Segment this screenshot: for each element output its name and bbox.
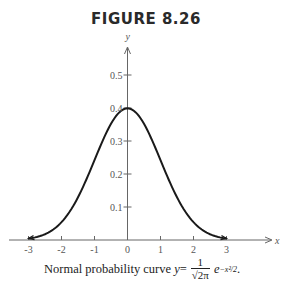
x-tick-label: -1 (90, 244, 98, 255)
x-axis-label: x (274, 235, 280, 246)
figure-caption: Normal probability curve y = 1 √2π e−x²/… (44, 256, 240, 282)
y-tick-label: 0.4 (110, 103, 123, 114)
caption-end: . (237, 262, 240, 277)
x-tick-label: 1 (158, 244, 163, 255)
caption-prefix: Normal probability curve (44, 262, 171, 277)
x-tick-label: 3 (224, 244, 229, 255)
y-tick-label: 0.2 (110, 169, 123, 180)
x-tick-label: 0 (125, 244, 130, 255)
chart-plot: xy -3-2-101230.10.20.30.40.5 (0, 0, 292, 292)
axes: xy (9, 31, 280, 246)
y-tick-label: 0.5 (110, 70, 123, 81)
caption-equals: = (180, 262, 187, 277)
caption-exponent: −x²/2 (219, 265, 237, 274)
x-tick-label: -2 (57, 244, 65, 255)
y-axis-label: y (125, 31, 131, 42)
fraction-denominator: √2π (191, 268, 210, 282)
y-tick-label: 0.1 (110, 202, 123, 213)
caption-fraction: 1 √2π (191, 256, 210, 282)
fraction-numerator: 1 (198, 256, 204, 268)
y-tick-label: 0.3 (110, 136, 123, 147)
x-tick-label: -3 (24, 244, 32, 255)
x-tick-label: 2 (191, 244, 196, 255)
